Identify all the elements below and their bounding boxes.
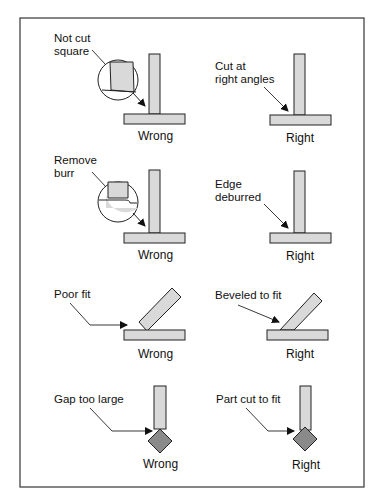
svg-text:Poor fit: Poor fit bbox=[54, 288, 91, 300]
fit-up-diagram: Not cut square Wrong Cut at right angles… bbox=[0, 0, 391, 501]
svg-text:Gap too large: Gap too large bbox=[54, 393, 124, 405]
svg-text:Wrong: Wrong bbox=[143, 457, 178, 471]
svg-text:Wrong: Wrong bbox=[138, 347, 173, 361]
svg-text:Wrong: Wrong bbox=[138, 248, 173, 262]
svg-text:Edge: Edge bbox=[215, 178, 242, 190]
svg-text:Right: Right bbox=[286, 249, 315, 263]
svg-text:Right: Right bbox=[286, 347, 315, 361]
svg-text:Beveled to fit: Beveled to fit bbox=[215, 289, 282, 301]
svg-text:Remove: Remove bbox=[54, 154, 97, 166]
annotation-line-2: square bbox=[54, 45, 89, 57]
svg-text:burr: burr bbox=[54, 167, 75, 179]
svg-text:Part cut to fit: Part cut to fit bbox=[216, 393, 281, 405]
svg-text:Right: Right bbox=[292, 458, 321, 472]
svg-text:Right: Right bbox=[286, 131, 315, 145]
svg-text:right angles: right angles bbox=[215, 73, 275, 85]
svg-text:Cut at: Cut at bbox=[215, 60, 246, 72]
annotation-line-1: Not cut bbox=[54, 32, 91, 44]
svg-text:deburred: deburred bbox=[215, 191, 261, 203]
caption: Wrong bbox=[138, 129, 173, 143]
